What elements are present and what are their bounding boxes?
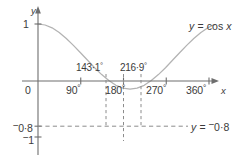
equation-function: cos [207, 20, 224, 32]
origin-label: 0 [25, 85, 31, 96]
angle-value-143-1: 143·1 [76, 62, 100, 73]
y-tick-label-minus-1: −1 [23, 133, 34, 145]
curve-equation-label: y = cos x [189, 21, 232, 32]
degree-sign-icon: ° [122, 84, 125, 93]
line-equation-value: 0·8 [214, 121, 229, 133]
degree-sign-icon: ° [77, 84, 80, 93]
cosine-curve [38, 24, 215, 89]
x-axis-arrow-icon [212, 78, 220, 84]
x-tick-value-360: 360 [186, 84, 203, 96]
degree-sign-icon: ° [100, 61, 103, 70]
annotation-angle-216-9: 216·9° [120, 62, 147, 73]
equation-argument: x [226, 20, 231, 32]
y-tick-value-1: 1 [28, 134, 34, 146]
degree-sign-icon: ° [203, 84, 206, 93]
x-tick-label-360: 360° [186, 85, 206, 96]
x-tick-value-90: 90 [66, 84, 77, 96]
annotation-angle-143-1: 143·1° [76, 62, 103, 73]
x-tick-value-180: 180 [105, 84, 122, 96]
degree-sign-icon: ° [144, 61, 147, 70]
y-tick-label-1: 1 [23, 19, 29, 30]
line-equation-label: y = −0·8 [191, 120, 229, 132]
x-tick-label-270: 270° [146, 85, 166, 96]
x-tick-value-270: 270 [146, 84, 163, 96]
y-axis-label: y [31, 6, 36, 16]
cosine-graph-figure: y x 1 0 −0·8 −1 90° 180° 270° 360° 143·1… [0, 0, 247, 161]
degree-sign-icon: ° [163, 84, 166, 93]
angle-value-216-9: 216·9 [120, 62, 144, 73]
x-tick-label-90: 90° [66, 85, 80, 96]
x-tick-label-180: 180° [105, 85, 125, 96]
x-axis-label: x [221, 86, 226, 96]
